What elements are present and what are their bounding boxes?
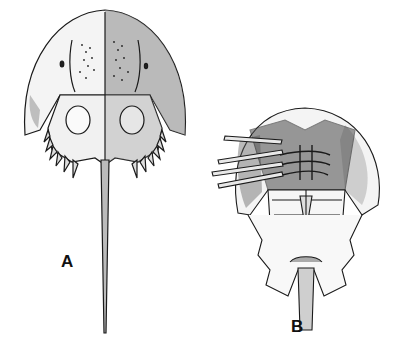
- ventral-view-illustration: [212, 108, 379, 330]
- panel-label-a: A: [61, 252, 73, 272]
- horseshoe-crab-figure: A B: [0, 0, 403, 346]
- illustration: [0, 0, 403, 346]
- dorsal-view-illustration: [25, 10, 186, 333]
- panel-label-b: B: [291, 317, 303, 337]
